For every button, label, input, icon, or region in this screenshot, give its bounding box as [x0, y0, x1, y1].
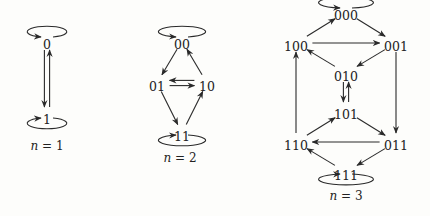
node-100: 100 — [284, 39, 308, 54]
caption-value: = 2 — [171, 151, 196, 165]
edge-00-to-01 — [162, 49, 177, 74]
caption-variable: n — [30, 139, 38, 153]
node-011: 011 — [384, 138, 408, 153]
caption-value: = 3 — [337, 189, 362, 203]
caption-variable: n — [163, 151, 171, 165]
node-01: 01 — [149, 79, 165, 94]
graph-n2: 00011011n = 2 — [149, 26, 215, 165]
edge-11-to-10 — [186, 91, 203, 124]
edge-100-to-000 — [307, 19, 335, 37]
node-1: 1 — [43, 112, 51, 127]
node-0: 0 — [43, 37, 51, 52]
edge-111-to-110 — [307, 149, 335, 166]
caption-n2: n = 2 — [163, 151, 196, 165]
caption-value: = 1 — [38, 139, 63, 153]
self-loop-0 — [27, 26, 67, 37]
edge-001-to-010 — [357, 50, 385, 67]
diagram-canvas: 01n = 100011011n = 200010000101010111001… — [0, 0, 430, 216]
edge-110-to-101 — [307, 118, 335, 136]
caption-n1: n = 1 — [30, 139, 63, 153]
edge-01-to-11 — [161, 91, 178, 124]
graph-n1: 01n = 1 — [27, 26, 67, 153]
node-00: 00 — [174, 37, 190, 52]
edge-011-to-111 — [357, 149, 385, 166]
node-11: 11 — [174, 129, 190, 144]
node-101: 101 — [334, 107, 358, 122]
self-loop-00 — [158, 26, 205, 37]
caption-variable: n — [329, 189, 337, 203]
node-111: 111 — [334, 168, 358, 183]
caption-n3: n = 3 — [329, 189, 362, 203]
state-graph-diagram: 01n = 100011011n = 200010000101010111001… — [0, 0, 430, 216]
graph-n3: 000100001010101110011111n = 3 — [284, 0, 408, 203]
edge-000-to-001 — [357, 19, 385, 37]
edge-101-to-011 — [357, 118, 385, 136]
edge-10-to-00 — [187, 49, 202, 74]
node-000: 000 — [334, 8, 358, 23]
node-10: 10 — [199, 79, 215, 94]
node-010: 010 — [334, 69, 358, 84]
edge-010-to-100 — [307, 50, 335, 67]
node-001: 001 — [384, 39, 408, 54]
node-110: 110 — [284, 138, 308, 153]
